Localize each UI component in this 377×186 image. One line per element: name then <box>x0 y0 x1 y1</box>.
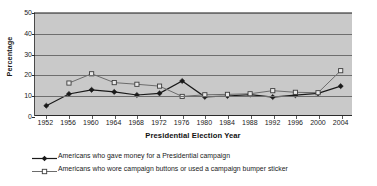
gridline-20 <box>35 75 352 76</box>
y-axis-title: Percentage <box>5 22 14 92</box>
data-point-buttons-2000 <box>316 91 320 95</box>
gridline-30 <box>35 55 352 56</box>
legend-label-2: Americans who wore campaign buttons or u… <box>58 164 288 173</box>
legend-item-2[interactable]: Americans who wore campaign buttons or u… <box>31 162 361 175</box>
x-axis-tick-labels: 1952195619601964196819721976198019841988… <box>34 118 352 130</box>
plot-area <box>34 12 352 116</box>
y-tickmark-50 <box>32 13 35 14</box>
series-lines <box>35 13 352 116</box>
gridline-40 <box>35 34 352 35</box>
gridline-50 <box>35 13 352 14</box>
data-point-gave-money-1972 <box>157 91 162 96</box>
y-tickmark-10 <box>32 96 35 97</box>
y-tick-label-30: 30 <box>16 50 32 57</box>
data-point-buttons-1972 <box>157 84 161 88</box>
data-point-gave-money-2004 <box>338 84 343 89</box>
plot-inner <box>35 13 352 116</box>
legend-label-1: Americans who gave money for a President… <box>58 151 230 160</box>
legend-square-marker-icon <box>31 163 58 174</box>
data-point-buttons-2004 <box>339 69 343 73</box>
chart-container: Percentage 01020304050 19521956196019641… <box>0 0 377 186</box>
y-axis-tick-labels: 01020304050 <box>16 12 32 116</box>
y-tick-label-50: 50 <box>16 9 32 16</box>
data-point-gave-money-1960 <box>89 87 94 92</box>
legend-item-1[interactable]: Americans who gave money for a President… <box>31 149 361 162</box>
x-tick-label-2004: 2004 <box>326 118 356 127</box>
y-tickmark-20 <box>32 75 35 76</box>
gridline-10 <box>35 96 352 97</box>
data-point-buttons-1992 <box>271 89 275 93</box>
y-tick-label-20: 20 <box>16 71 32 78</box>
data-point-buttons-1964 <box>112 81 116 85</box>
chart-legend: Americans who gave money for a President… <box>31 149 361 175</box>
data-point-buttons-1956 <box>67 81 71 85</box>
x-axis-title: Presidential Election Year <box>34 131 352 140</box>
y-tickmark-40 <box>32 34 35 35</box>
legend-diamond-marker-icon <box>31 150 58 161</box>
data-point-gave-money-1964 <box>112 89 117 94</box>
y-tickmark-30 <box>32 55 35 56</box>
data-point-buttons-1968 <box>135 82 139 86</box>
data-point-gave-money-1952 <box>44 103 49 108</box>
y-tick-label-10: 10 <box>16 92 32 99</box>
y-tick-label-40: 40 <box>16 29 32 36</box>
data-point-buttons-1996 <box>293 90 297 94</box>
